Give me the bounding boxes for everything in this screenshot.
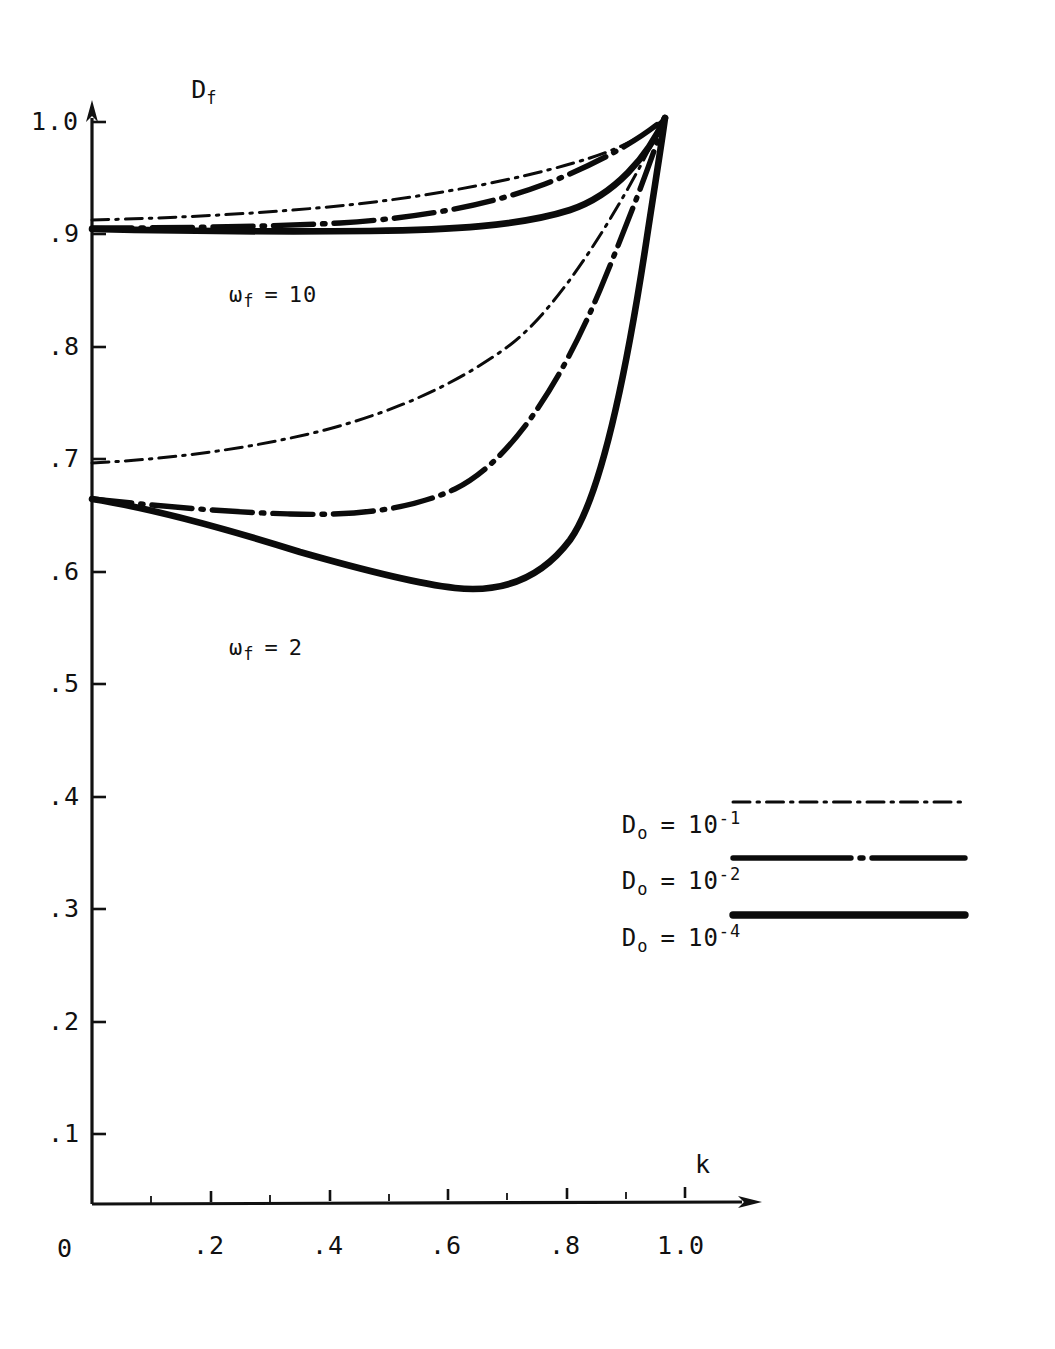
y-tick-label-2: .9: [48, 221, 80, 246]
annotation-value-upper: 10: [279, 282, 318, 307]
annotation-omega-symbol-lower: ω: [229, 635, 243, 660]
y-axis-ticks: [92, 122, 106, 1134]
x-tick-label-3: .6: [430, 1233, 462, 1258]
annotation-omega-f-2: ωf=2: [172, 615, 303, 685]
legend-subscript-2: o: [637, 879, 648, 899]
legend-base-3: 10: [676, 924, 719, 952]
x-tick-label-4: .8: [549, 1233, 581, 1258]
y-tick-label-3: .8: [48, 334, 80, 359]
x-tick-label-1: .2: [193, 1233, 225, 1258]
y-tick-label-9: .2: [48, 1009, 80, 1034]
y-axis-title-main: D: [191, 75, 206, 104]
x-tick-label-2: .4: [312, 1233, 344, 1258]
x-axis: [92, 1196, 762, 1208]
legend-base-2: 10: [676, 867, 719, 895]
x-axis-title: k: [695, 1152, 710, 1177]
chart-canvas: [0, 0, 1055, 1349]
y-axis-title-subscript: f: [206, 88, 216, 108]
y-axis-title: Df: [131, 52, 217, 132]
legend-symbol-2: D: [622, 867, 637, 895]
legend-subscript-1: o: [637, 823, 648, 843]
x-axis-ticks: [151, 1187, 685, 1203]
y-tick-label-4: .7: [48, 446, 80, 471]
legend-symbol-1: D: [622, 811, 637, 839]
curve-wf2-do1e-4: [92, 118, 665, 589]
legend-symbol-3: D: [622, 924, 637, 952]
origin-label: 0: [57, 1236, 73, 1261]
y-tick-label-8: .3: [48, 896, 80, 921]
x-tick-label-5: 1.0: [657, 1233, 705, 1258]
y-tick-label-1: 1.0: [31, 109, 79, 134]
legend-exponent-1: -1: [719, 808, 741, 828]
annotation-omega-sub-upper: f: [243, 291, 254, 311]
legend-equals-1: =: [649, 811, 676, 839]
y-tick-label-10: .1: [48, 1121, 80, 1146]
legend-exponent-3: -4: [719, 921, 741, 941]
y-tick-label-6: .5: [48, 671, 80, 696]
legend-equals-2: =: [649, 867, 676, 895]
annotation-omega-symbol-upper: ω: [229, 282, 243, 307]
y-tick-label-5: .6: [48, 559, 80, 584]
legend-subscript-3: o: [637, 936, 648, 956]
annotation-equals-upper: =: [254, 282, 278, 307]
annotation-omega-sub-lower: f: [243, 644, 254, 664]
figure-root: Df k 1.0 .9 .8 .7 .6 .5 .4 .3 .2 .1 0 .2…: [0, 0, 1055, 1349]
annotation-omega-f-10: ωf=10: [172, 262, 317, 332]
legend-base-1: 10: [676, 811, 719, 839]
y-tick-label-7: .4: [48, 784, 80, 809]
legend-label-3: Do=10-4: [560, 899, 741, 979]
legend-exponent-2: -2: [719, 864, 741, 884]
annotation-value-lower: 2: [279, 635, 303, 660]
legend-equals-3: =: [649, 924, 676, 952]
annotation-equals-lower: =: [254, 635, 278, 660]
y-axis: [86, 100, 98, 1204]
curve-wf10-do1e-2: [92, 118, 665, 228]
curve-wf10-do1e-4: [92, 118, 665, 231]
